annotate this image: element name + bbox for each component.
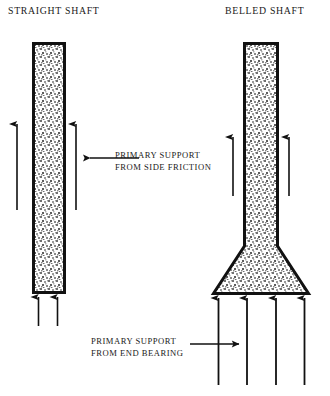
straight-shaft-group xyxy=(34,44,65,293)
belled-shaft-group xyxy=(214,44,309,294)
side-friction-line-2: FROM SIDE FRICTION xyxy=(115,162,211,174)
straight-shaft-body xyxy=(34,44,65,293)
end-bearing-line-1: PRIMARY SUPPORT xyxy=(91,336,184,348)
side-friction-annotation: PRIMARY SUPPORT FROM SIDE FRICTION xyxy=(115,150,211,173)
straight-shaft-bearing-arrows xyxy=(39,297,58,326)
diagram-canvas: STRAIGHT SHAFT BELLED SHAFT xyxy=(0,0,330,396)
belled-shaft-body xyxy=(214,44,309,294)
side-friction-line-1: PRIMARY SUPPORT xyxy=(115,150,211,162)
end-bearing-annotation: PRIMARY SUPPORT FROM END BEARING xyxy=(91,336,184,359)
belled-shaft-bearing-arrows xyxy=(219,298,305,385)
end-bearing-line-2: FROM END BEARING xyxy=(91,348,184,360)
